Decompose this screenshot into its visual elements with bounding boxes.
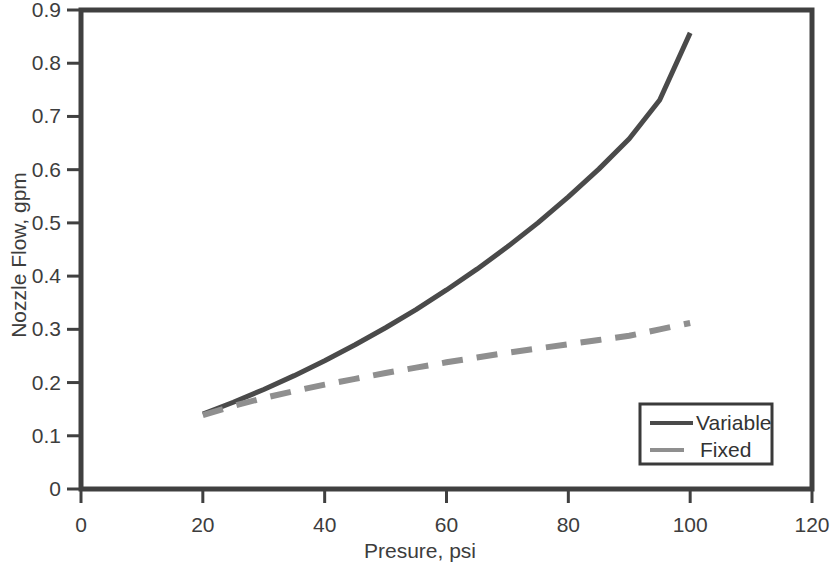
x-tick-label: 80 bbox=[557, 513, 580, 536]
y-tick-label: 0.4 bbox=[32, 264, 62, 287]
legend-label-fixed: Fixed bbox=[700, 438, 751, 461]
x-tick-label: 100 bbox=[673, 513, 708, 536]
y-tick-label: 0.2 bbox=[32, 371, 61, 394]
y-tick-label: 0.6 bbox=[32, 158, 61, 181]
legend: Variable Fixed bbox=[640, 404, 772, 464]
y-tick-label: 0 bbox=[49, 477, 61, 500]
x-tick-label: 120 bbox=[794, 513, 829, 536]
y-tick-label: 0.9 bbox=[32, 0, 61, 21]
chart-page: 00.10.20.30.40.50.60.70.80.9 02040608010… bbox=[0, 0, 830, 570]
y-tick-label: 0.7 bbox=[32, 104, 61, 127]
y-tick-label: 0.3 bbox=[32, 317, 61, 340]
chart-background bbox=[0, 0, 830, 570]
x-axis-title: Presure, psi bbox=[364, 539, 476, 562]
x-tick-label: 20 bbox=[191, 513, 214, 536]
x-tick-label: 0 bbox=[75, 513, 87, 536]
nozzle-flow-line-chart: 00.10.20.30.40.50.60.70.80.9 02040608010… bbox=[0, 0, 830, 570]
y-tick-label: 0.1 bbox=[32, 424, 61, 447]
x-tick-label: 40 bbox=[313, 513, 336, 536]
y-axis-title: Nozzle Flow, gpm bbox=[7, 172, 30, 338]
legend-label-variable: Variable bbox=[696, 411, 772, 434]
x-tick-label: 60 bbox=[435, 513, 458, 536]
y-tick-label: 0.5 bbox=[32, 211, 61, 234]
y-tick-label: 0.8 bbox=[32, 51, 61, 74]
